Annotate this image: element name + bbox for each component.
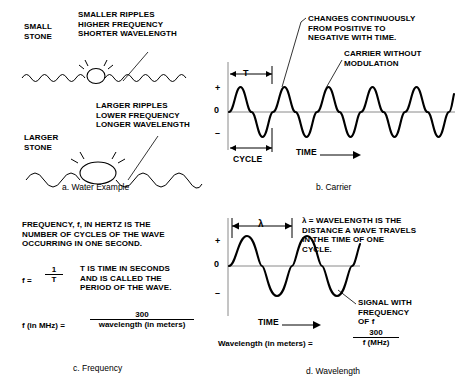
frequency-formula1-denominator: T <box>45 275 63 284</box>
frequency-definition: FREQUENCY, f, IN HERTZ IS THE NUMBER OF … <box>22 220 165 249</box>
frequency-formula1-numerator: 1 <box>45 265 63 274</box>
wavelength-formula-denominator: f (MHz) <box>353 338 399 347</box>
wavelength-formula-numerator: 300 <box>353 328 399 337</box>
arrowhead-left <box>230 145 236 151</box>
panel-d-caption: d. Wavelength <box>306 366 360 376</box>
frequency-formula1-fraction: 1 T <box>45 265 63 284</box>
splash-mark <box>118 159 125 163</box>
splash-mark <box>71 159 78 163</box>
splash-mark <box>104 60 107 66</box>
arrowhead-right <box>313 321 321 329</box>
small-ripple-wave-left <box>22 75 85 82</box>
splash-mark <box>85 60 88 66</box>
arrowhead-right <box>353 151 361 159</box>
panel-a-caption: a. Water Example <box>62 182 129 192</box>
frequency-formula2-lhs: f (in MHz) = <box>22 321 65 330</box>
small-ripple-wave-right <box>105 75 186 82</box>
arrowhead-right <box>285 223 292 230</box>
panel-carrier: CHANGES CONTINUOUSLY FROM POSITIVE TO NE… <box>210 0 462 194</box>
leader-line-modulation <box>326 60 342 88</box>
wavelength-waveform-chart <box>210 194 462 339</box>
small-stone-ripple-drawing <box>0 48 231 108</box>
panel-b-caption: b. Carrier <box>316 182 351 192</box>
leader-line-signal <box>338 290 356 304</box>
panel-water-example: SMALL STONE SMALLER RIPPLES HIGHER FREQU… <box>0 0 231 194</box>
leader-line-small <box>123 52 148 81</box>
period-note: T IS TIME IN SECONDS AND IS CALLED THE P… <box>80 264 172 293</box>
small-stone-label: SMALL STONE <box>24 22 52 41</box>
large-ripples-note: LARGER RIPPLES LOWER FREQUENCY LONGER WA… <box>96 101 190 130</box>
arrowhead-left <box>230 71 236 77</box>
wavelength-formula-fraction: 300 f (MHz) <box>353 328 399 347</box>
arrowhead-left <box>232 223 239 230</box>
wavelength-formula-lhs: Wavelength (in meters) = <box>218 339 313 348</box>
arrowhead-right <box>266 145 272 151</box>
frequency-formula2-denominator: wavelength (in meters) <box>90 320 194 329</box>
splash-mark <box>112 152 116 159</box>
frequency-formula1-lhs: f = <box>22 276 32 285</box>
panel-c-caption: c. Frequency <box>73 363 122 373</box>
splash-mark <box>80 152 84 159</box>
leader-line-changes <box>282 18 306 87</box>
small-stone-shape <box>87 69 105 84</box>
carrier-waveform-chart <box>210 0 462 180</box>
arrowhead-right <box>266 71 272 77</box>
splash-mark <box>79 65 84 69</box>
frequency-formula2-fraction: 300 wavelength (in meters) <box>90 310 194 329</box>
small-ripples-note: SMALLER RIPPLES HIGHER FREQUENCY SHORTER… <box>78 10 177 39</box>
large-stone-shape <box>80 162 116 184</box>
panel-frequency: FREQUENCY, f, IN HERTZ IS THE NUMBER OF … <box>0 194 231 388</box>
panel-wavelength: λ = WAVELENGTH IS THE DISTANCE A WAVE TR… <box>210 194 462 388</box>
frequency-formula2-numerator: 300 <box>90 310 194 319</box>
splash-mark <box>108 65 113 69</box>
